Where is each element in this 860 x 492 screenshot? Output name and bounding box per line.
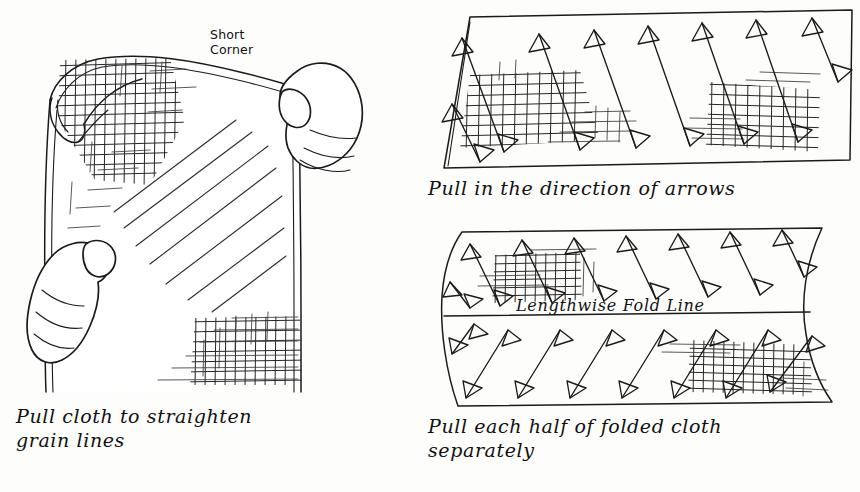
pull-direction-panel [442,10,852,168]
top-right-panel-caption: Pull in the direction of arrows [428,176,848,200]
bottom-right-panel-caption: Pull each half of folded cloth separatel… [428,414,848,463]
folded-cloth-panel [442,228,832,406]
lengthwise-fold-line-label: Lengthwise Fold Line [516,296,705,315]
left-cloth-illustration [27,52,362,392]
grain-patch-tr-2 [700,74,830,158]
grain-patch-br-2 [682,336,818,400]
figure-canvas: Short Corner Pull cloth to straighten gr… [0,0,860,492]
grain-patch-tr-1 [455,64,610,156]
top-right-hand [279,63,362,171]
left-panel-caption: Pull cloth to straighten grain lines [16,404,316,453]
arrows-lower-half [449,324,825,398]
grain-ticks-tr-1 [499,60,636,142]
short-corner-label: Short Corner [210,28,253,58]
